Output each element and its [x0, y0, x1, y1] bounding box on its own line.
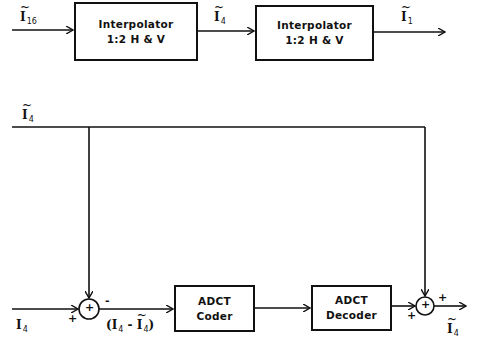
interpolator-box-1: Interpolator 1:2 H & V: [74, 2, 198, 61]
label-i4-tilde-feedback: I4: [22, 108, 34, 122]
sum1-top-sign: -: [105, 294, 110, 307]
sum1-plus-glyph: +: [85, 301, 94, 314]
box-label-line2: 1:2 H & V: [285, 33, 344, 48]
label-i16-tilde: I16: [20, 10, 37, 24]
interpolator-box-2: Interpolator 1:2 H & V: [255, 5, 374, 61]
box-label-line2: Decoder: [326, 308, 377, 323]
sum2-plus-glyph: +: [421, 298, 430, 311]
box-label-line1: Interpolator: [277, 18, 352, 33]
label-i4-input: I4: [16, 318, 28, 332]
box-label-line2: 1:2 H & V: [107, 32, 166, 47]
sum2-left-sign: +: [407, 309, 416, 322]
label-i4-tilde-mid: I4: [214, 10, 226, 24]
box-label-line1: Interpolator: [98, 17, 173, 32]
sum2-top-sign: +: [438, 291, 447, 304]
box-label-line1: ADCT: [335, 293, 368, 308]
adct-decoder-box: ADCT Decoder: [311, 285, 392, 331]
label-i4-tilde-output: I4: [447, 322, 459, 336]
label-i1-tilde: I1: [401, 10, 413, 24]
box-label-line2: Coder: [196, 309, 232, 324]
label-difference: (I4 - I4): [106, 318, 154, 332]
adct-coder-box: ADCT Coder: [174, 285, 255, 332]
sum1-left-sign: +: [68, 312, 77, 325]
box-label-line1: ADCT: [198, 294, 231, 309]
